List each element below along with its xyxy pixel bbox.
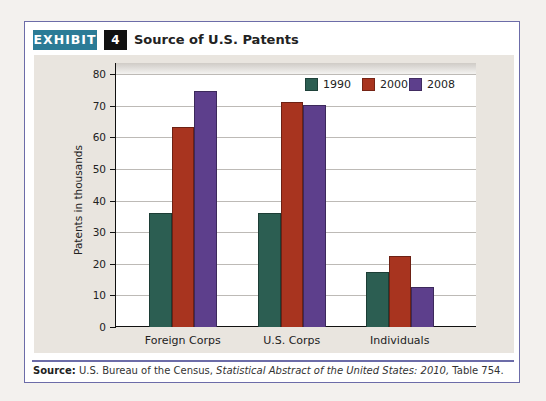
bar-individuals-2008 — [411, 287, 434, 327]
chart-title: Source of U.S. Patents — [134, 30, 299, 50]
source-publication: Statistical Abstract of the United State… — [216, 365, 449, 376]
y-tick — [110, 201, 116, 202]
y-tick-label: 0 — [80, 321, 106, 333]
legend-label-1990: 1990 — [323, 77, 351, 92]
source-divider — [32, 360, 514, 362]
x-category-label: Foreign Corps — [123, 334, 243, 347]
gridline — [115, 74, 476, 75]
bar-foreign-corps-1990 — [149, 213, 172, 327]
x-category-label: U.S. Corps — [232, 334, 352, 347]
legend-swatch-2000 — [362, 78, 375, 91]
bar-foreign-corps-2000 — [172, 127, 195, 327]
y-tick — [110, 232, 116, 233]
x-category-label: Individuals — [340, 334, 460, 347]
y-tick-label: 70 — [80, 100, 106, 112]
legend-swatch-2008 — [409, 78, 422, 91]
exhibit-number: 4 — [104, 30, 127, 50]
source-note: Source: U.S. Bureau of the Census, Stati… — [33, 364, 504, 378]
y-tick — [110, 137, 116, 138]
y-tick-label: 60 — [80, 131, 106, 143]
bar-foreign-corps-2008 — [194, 91, 217, 327]
y-axis-label: Patents in thousands — [72, 145, 84, 255]
bar-individuals-1990 — [366, 272, 389, 327]
bar-u-s-corps-1990 — [258, 213, 281, 327]
legend-swatch-1990 — [305, 78, 318, 91]
bar-individuals-2000 — [389, 256, 412, 327]
y-tick-label: 20 — [80, 258, 106, 270]
y-tick — [110, 74, 116, 75]
y-tick — [110, 264, 116, 265]
exhibit-tag: EXHIBIT — [33, 30, 97, 50]
plot-top-band — [116, 63, 476, 74]
source-table: Table 754. — [449, 365, 503, 376]
y-tick-label: 10 — [80, 289, 106, 301]
legend-label-2008: 2008 — [427, 77, 455, 92]
bar-u-s-corps-2000 — [281, 102, 304, 327]
y-tick — [110, 327, 116, 328]
legend-label-2000: 2000 — [380, 77, 408, 92]
y-tick — [110, 106, 116, 107]
source-text: U.S. Bureau of the Census, — [76, 365, 216, 376]
source-label: Source: — [33, 365, 76, 376]
bar-u-s-corps-2008 — [303, 105, 326, 327]
y-tick — [110, 169, 116, 170]
y-tick-label: 80 — [80, 68, 106, 80]
y-tick — [110, 295, 116, 296]
